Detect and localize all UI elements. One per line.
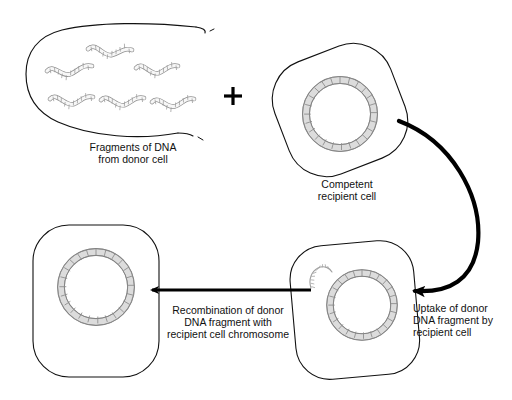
transformation-diagram xyxy=(0,0,512,400)
label-donor-fragments: Fragments of DNA from donor cell xyxy=(68,141,198,165)
donor-membrane-flake-bottom xyxy=(198,137,203,140)
label-recombination: Recombination of donor DNA fragment with… xyxy=(148,304,308,340)
donor-membrane-flake-top xyxy=(210,29,214,31)
donor-membrane-tear-top xyxy=(196,27,205,33)
donor-membrane-tear-bottom xyxy=(178,133,193,136)
donor-cell-membrane xyxy=(26,24,196,137)
competent-cell-membrane xyxy=(261,32,420,188)
diagram-canvas: Fragments of DNA from donor cell Compete… xyxy=(0,0,512,400)
donor-cell xyxy=(26,24,214,140)
plus-icon xyxy=(224,87,242,105)
recombinant-recipient-cell xyxy=(33,225,159,377)
recombinant-cell-membrane xyxy=(33,225,159,377)
label-competent-cell: Competent recipient cell xyxy=(292,178,402,202)
competent-recipient-cell xyxy=(261,32,420,188)
label-uptake: Uptake of donor DNA fragment by recipien… xyxy=(413,302,509,338)
